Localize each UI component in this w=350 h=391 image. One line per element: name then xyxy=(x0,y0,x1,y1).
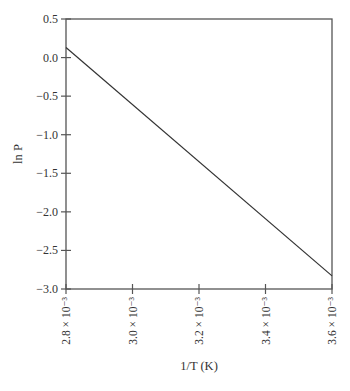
y-tick-label: 0.0 xyxy=(43,51,58,65)
y-tick-label: 0.5 xyxy=(43,12,58,26)
x-axis-label: 1/T (K) xyxy=(180,359,218,373)
y-tick-label: −1.0 xyxy=(36,128,58,142)
x-tick-label: 3.6 × 10⁻³ xyxy=(326,296,338,344)
x-tick-label: 3.0 × 10⁻³ xyxy=(127,296,139,344)
x-tick-label: 2.8 × 10⁻³ xyxy=(60,296,72,344)
y-tick-label: −3.0 xyxy=(36,282,58,296)
y-tick-label: −2.0 xyxy=(36,205,58,219)
plot-frame xyxy=(66,19,332,289)
y-tick-label: −1.5 xyxy=(36,166,58,180)
y-tick-label: −2.5 xyxy=(36,243,58,257)
y-tick-label: −0.5 xyxy=(36,89,58,103)
data-line xyxy=(66,48,332,276)
chart: 0.50.0−0.5−1.0−1.5−2.0−2.5−3.02.8 × 10⁻³… xyxy=(0,0,350,391)
x-tick-label: 3.2 × 10⁻³ xyxy=(193,296,205,344)
y-axis-label: ln P xyxy=(11,144,25,164)
x-tick-label: 3.4 × 10⁻³ xyxy=(260,296,272,344)
